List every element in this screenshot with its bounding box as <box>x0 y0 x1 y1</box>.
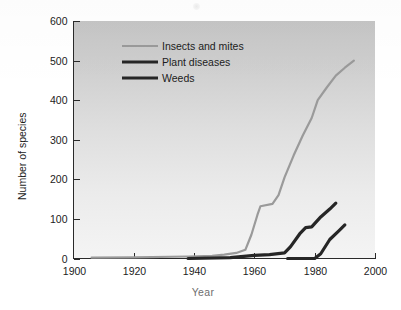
x-tick-label: 1900 <box>63 265 87 277</box>
legend-label-1: Plant diseases <box>162 56 230 68</box>
y-tick-label: 300 <box>50 134 68 146</box>
x-axis-tick-labels: 190019201940196019802000 <box>63 265 388 277</box>
legend-label-2: Weeds <box>162 72 195 84</box>
x-tick-label: 1980 <box>304 265 328 277</box>
scan-artifact-speck <box>193 3 200 10</box>
line-chart: 0100200300400500600 19001920194019601980… <box>0 0 401 310</box>
x-tick-label: 1940 <box>183 265 207 277</box>
x-axis-title: Year <box>192 286 215 298</box>
y-tick-label: 500 <box>50 55 68 67</box>
chart-figure: 0100200300400500600 19001920194019601980… <box>0 0 401 310</box>
y-axis-title: Number of species <box>16 112 28 200</box>
legend-label-0: Insects and mites <box>162 40 244 52</box>
y-tick-label: 400 <box>50 94 68 106</box>
x-tick-label: 1920 <box>123 265 147 277</box>
x-tick-label: 1960 <box>243 265 267 277</box>
y-tick-label: 600 <box>50 15 68 27</box>
y-tick-label: 100 <box>50 213 68 225</box>
y-tick-label: 200 <box>50 173 68 185</box>
y-tick-label: 0 <box>62 253 68 265</box>
x-tick-label: 2000 <box>364 265 388 277</box>
y-axis-tick-labels: 0100200300400500600 <box>50 15 68 265</box>
